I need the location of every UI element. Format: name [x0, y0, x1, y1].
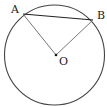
- label-o: O: [59, 55, 68, 68]
- radius-oa: [23, 14, 56, 55]
- label-b: B: [97, 9, 105, 22]
- radius-ob: [56, 20, 93, 55]
- center-point: [55, 54, 58, 57]
- circle-diagram: A B O: [0, 0, 107, 107]
- label-a: A: [10, 3, 20, 16]
- chord-ab: [23, 14, 93, 20]
